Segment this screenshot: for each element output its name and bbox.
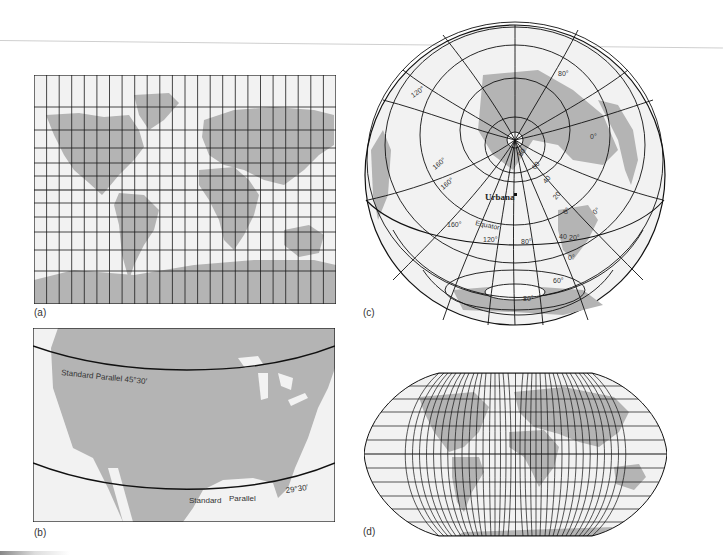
label-lon-20: 20°	[569, 234, 580, 241]
label-parallel: Parallel	[229, 494, 256, 503]
panel-d-robinson-map	[364, 372, 667, 537]
caption-a: (a)	[34, 307, 46, 318]
label-160-c: 160°	[447, 221, 462, 228]
urbana-marker	[514, 193, 517, 196]
label-120-bottom: 120°	[483, 236, 498, 243]
label-standard: Standard	[189, 496, 221, 505]
label-lat-0-lower: 0°	[568, 254, 575, 261]
panel-c-azimuthal-map: 120° 160° 160° 160° 120° 80° Equator 80°…	[363, 20, 673, 335]
decorative-bar	[0, 551, 70, 555]
label-80-bottom: 80°	[521, 238, 532, 245]
panel-a-mercator-map	[34, 75, 336, 304]
label-lon-40: 40	[559, 233, 567, 240]
caption-b: (b)	[34, 527, 46, 538]
label-urbana: Urbana	[485, 192, 515, 202]
caption-d: (d)	[363, 526, 375, 537]
label-80-top: 80°	[558, 70, 569, 77]
label-lat-60-south: 60°	[553, 277, 564, 284]
label-0-right: 0°	[590, 133, 597, 140]
label-lat-80-south: 80°	[523, 295, 534, 302]
panel-b-conic-map: Standard Parallel 45°30′ Standard Parall…	[33, 328, 335, 522]
caption-c: (c)	[363, 307, 375, 318]
